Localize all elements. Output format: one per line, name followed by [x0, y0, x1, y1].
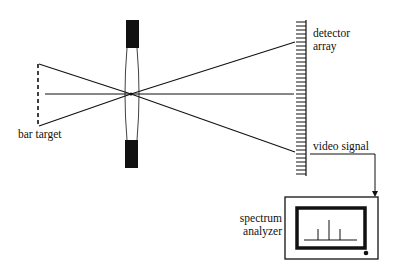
arrow-down-icon — [372, 191, 378, 197]
video-signal-label: video signal — [313, 140, 369, 152]
video-signal-wire — [310, 154, 375, 193]
analyzer-screen — [297, 208, 365, 248]
lens-mount-bottom — [125, 140, 138, 168]
spectrum-trace — [304, 220, 357, 240]
detector-array — [296, 20, 306, 176]
analyzer-knob — [364, 251, 369, 256]
spectrum-analyzer-label-line2: analyzer — [230, 225, 282, 237]
detector-array-label-line1: detector — [313, 27, 350, 39]
spectrum-analyzer — [285, 197, 378, 259]
lens-mount-top — [126, 20, 139, 48]
detector-array-label-line2: array — [313, 40, 337, 52]
spectrum-analyzer-label-line1: spectrum — [230, 212, 282, 224]
rays — [39, 42, 295, 152]
bar-target-label: bar target — [18, 128, 62, 140]
